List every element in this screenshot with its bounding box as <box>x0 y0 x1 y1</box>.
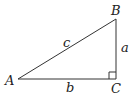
right-angle-marker <box>109 72 116 79</box>
right-triangle-diagram: A B C a b c <box>0 0 135 97</box>
vertex-label-a: A <box>4 73 14 88</box>
side-label-a: a <box>121 40 129 55</box>
side-label-b: b <box>66 80 74 95</box>
vertex-label-b: B <box>110 3 121 18</box>
vertex-label-c: C <box>111 81 121 96</box>
side-label-c: c <box>63 35 71 50</box>
